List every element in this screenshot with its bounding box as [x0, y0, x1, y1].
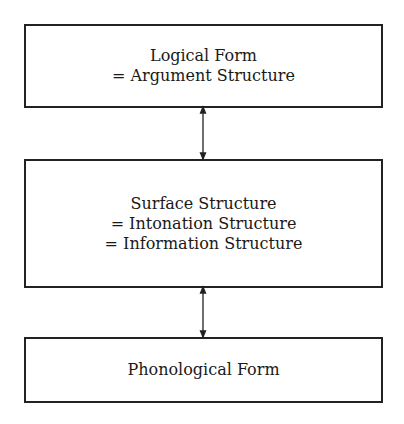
edges-layer — [0, 0, 404, 424]
bidirectional-arrow-icon — [201, 107, 206, 159]
bidirectional-arrow-icon — [201, 287, 206, 337]
